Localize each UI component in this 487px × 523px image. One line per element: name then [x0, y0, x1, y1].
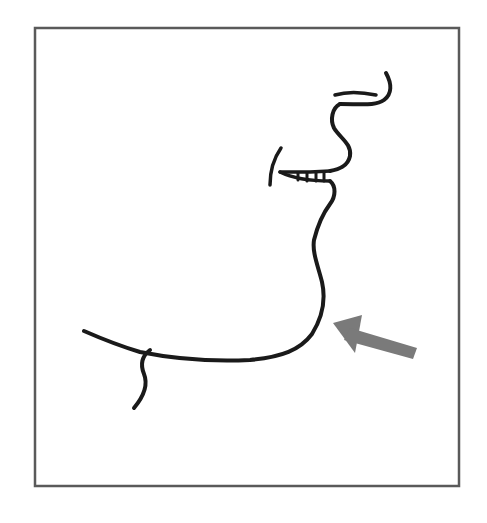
jaw-hook [134, 350, 150, 408]
upper-lip-curve [330, 104, 350, 171]
diagram-canvas [0, 0, 487, 523]
cheek-line [270, 148, 281, 185]
nose-tip-line [340, 73, 390, 104]
face-profile [84, 73, 390, 408]
mouth-upper-line [280, 171, 330, 172]
frame-border [35, 28, 459, 486]
nostril-line [335, 92, 376, 95]
chin-neck-curve [84, 181, 335, 361]
pointer-arrow [333, 315, 417, 359]
